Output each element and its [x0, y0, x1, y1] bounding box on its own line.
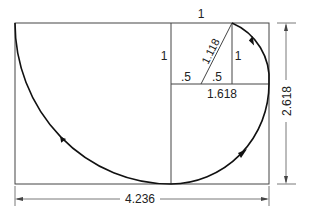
arrow-up-icon [284, 23, 288, 31]
right-small-label: 1 [235, 49, 242, 63]
arrow-left-icon [15, 197, 23, 201]
height-label: 2.618 [280, 86, 294, 116]
outer-rectangle [15, 23, 269, 184]
half-left-label: .5 [181, 70, 191, 84]
golden-spiral-diagram: 2.618 4.236 1 1 1.118 1 .5 .5 1.618 [0, 0, 309, 217]
arrow-right-icon [261, 197, 269, 201]
top-square-label: 1 [198, 7, 205, 21]
arrow-down-icon [284, 176, 288, 184]
half-right-label: .5 [212, 70, 222, 84]
arrow-icon [238, 149, 247, 158]
golden-width-label: 1.618 [207, 87, 237, 101]
diagonal-label: 1.118 [199, 37, 222, 66]
golden-spiral [15, 23, 269, 184]
left-square-label: 1 [161, 49, 168, 63]
width-label: 4.236 [125, 192, 155, 206]
